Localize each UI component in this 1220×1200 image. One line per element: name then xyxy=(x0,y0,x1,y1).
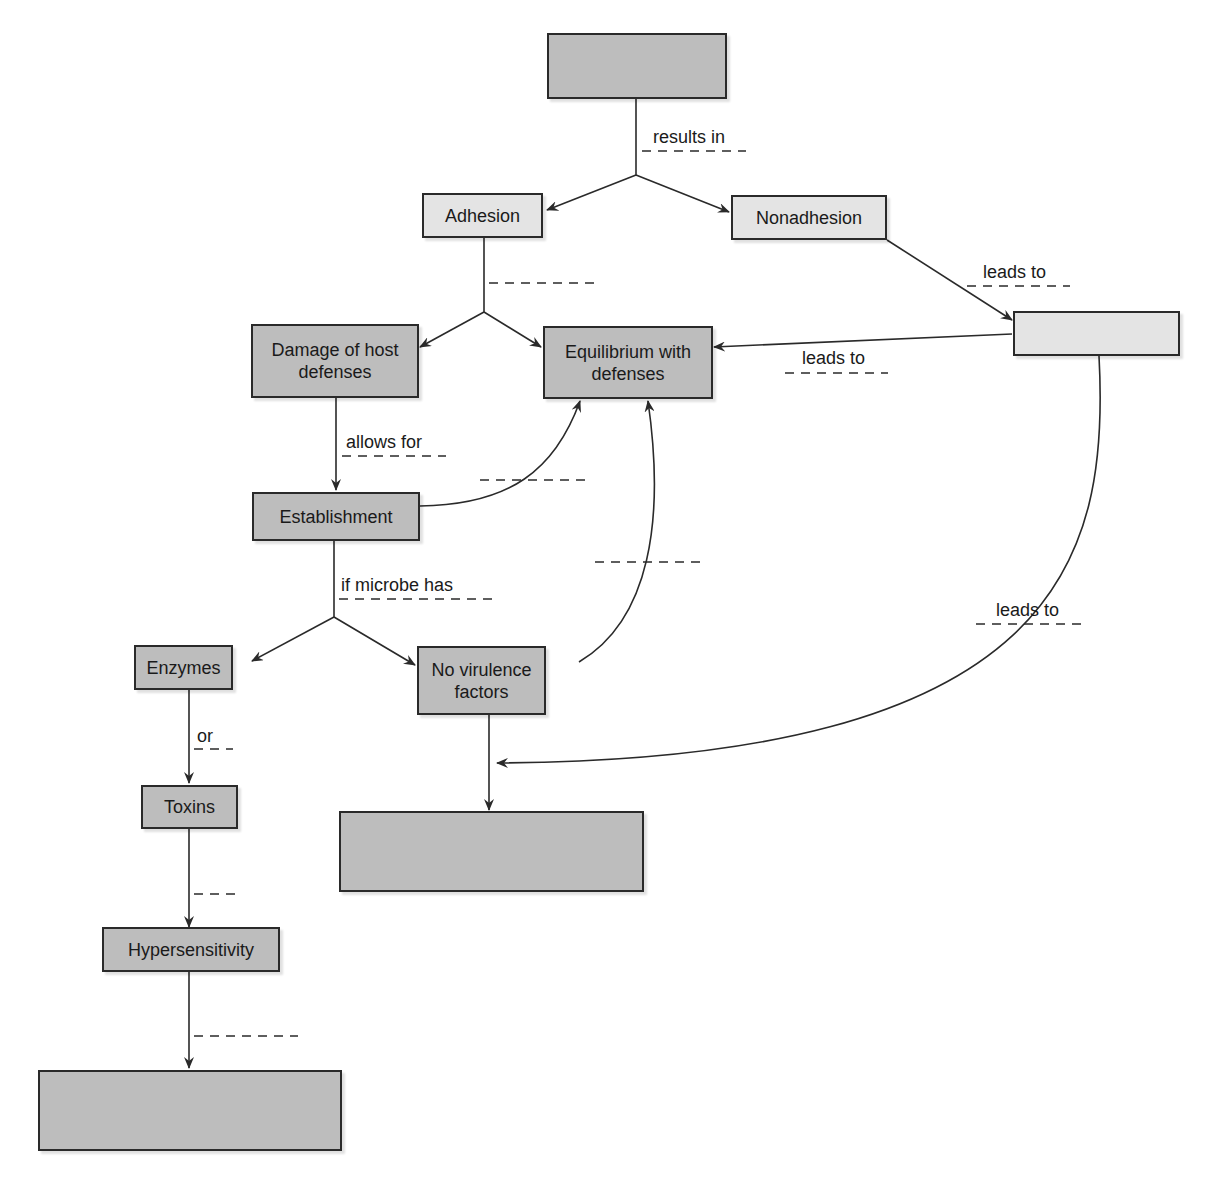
node-middle-blank xyxy=(339,811,644,892)
node-label: Hypersensitivity xyxy=(128,939,254,961)
edge-label-allows-for: allows for xyxy=(346,432,422,452)
edge-label-leads-to-equilibrium: leads to xyxy=(802,348,865,368)
node-label: Enzymes xyxy=(146,657,220,679)
node-label: Nonadhesion xyxy=(756,207,862,229)
node-bottom-blank xyxy=(38,1070,342,1151)
node-label: Equilibrium with defenses xyxy=(559,341,697,385)
edge-label-if-microbe-has: if microbe has xyxy=(341,575,453,595)
edge-label-or: or xyxy=(197,726,213,746)
node-top-blank xyxy=(547,33,727,99)
node-label: Adhesion xyxy=(445,205,520,227)
node-hypersensitivity: Hypersensitivity xyxy=(102,927,280,972)
node-damage-of-host-defenses: Damage of host defenses xyxy=(251,324,419,398)
edge-label-leads-to-nonadhesion: leads to xyxy=(983,262,1046,282)
node-enzymes: Enzymes xyxy=(134,645,233,690)
edge-label-results-in: results in xyxy=(653,127,725,147)
node-equilibrium-with-defenses: Equilibrium with defenses xyxy=(543,326,713,399)
node-toxins: Toxins xyxy=(141,785,238,829)
edge-label-leads-to-right-curve: leads to xyxy=(996,600,1059,620)
node-label: No virulence factors xyxy=(429,659,534,703)
node-nonadhesion: Nonadhesion xyxy=(731,195,887,240)
node-right-blank xyxy=(1013,311,1180,356)
node-no-virulence-factors: No virulence factors xyxy=(417,646,546,715)
node-establishment: Establishment xyxy=(252,492,420,541)
node-label: Damage of host defenses xyxy=(271,339,399,383)
node-adhesion: Adhesion xyxy=(422,193,543,238)
node-label: Toxins xyxy=(164,796,215,818)
node-label: Establishment xyxy=(279,506,392,528)
